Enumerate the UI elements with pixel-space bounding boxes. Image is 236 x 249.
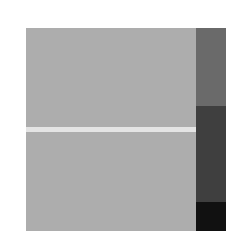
side-gradient-bar: [196, 28, 226, 231]
horizontal-light-stripe: [26, 127, 196, 132]
side-segment-middle: [196, 106, 226, 202]
side-segment-upper: [196, 28, 226, 106]
side-segment-lower: [196, 202, 226, 231]
gray-panel: [26, 28, 196, 231]
